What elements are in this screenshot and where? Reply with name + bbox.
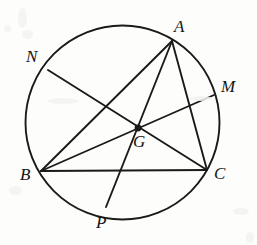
geometry-canvas: [0, 0, 257, 245]
geometry-figure: ABCGMNP: [0, 0, 257, 245]
scan-speck-5: [9, 186, 22, 195]
scan-speck-3: [48, 98, 78, 104]
point-label-b: B: [20, 166, 30, 183]
scan-speck-7: [246, 232, 254, 243]
segments-layer: [41, 41, 214, 207]
vertex-dot-g: [135, 125, 142, 132]
point-label-m: M: [221, 78, 235, 95]
point-label-n: N: [26, 48, 37, 65]
circumcircle: [26, 26, 220, 220]
point-label-g: G: [133, 133, 145, 150]
scan-speck-1: [4, 25, 11, 32]
vertex-dots-layer: [135, 125, 142, 132]
segment-bc: [41, 170, 207, 171]
scan-speck-0: [18, 8, 27, 28]
point-label-p: P: [96, 214, 106, 231]
point-label-c: C: [214, 165, 225, 182]
point-label-a: A: [174, 18, 184, 35]
scan-speck-2: [22, 30, 33, 39]
segment-bm: [41, 95, 214, 171]
scan-speck-4: [190, 96, 212, 101]
scan-speck-6: [233, 208, 249, 215]
segment-ap: [106, 41, 172, 207]
